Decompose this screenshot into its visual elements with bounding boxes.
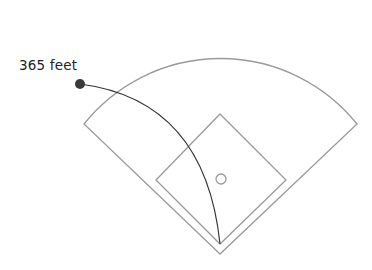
hit-trajectory [80,84,220,244]
pitchers-mound [216,174,226,184]
distance-label: 365 feet [19,57,77,73]
outfield-boundary [84,59,357,254]
infield-diamond [156,114,286,244]
ball-landing-marker [75,79,85,89]
baseball-field-diagram [0,0,372,270]
